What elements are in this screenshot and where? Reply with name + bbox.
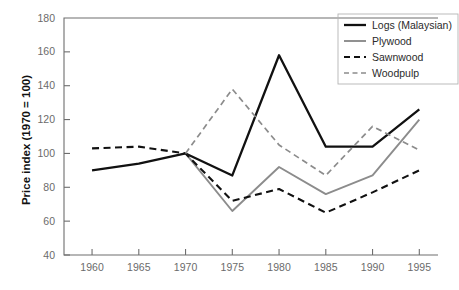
chart-canvas: Price index (1970 = 100) 406080100120140… <box>0 0 459 290</box>
line-chart-figure: Price index (1970 = 100) 406080100120140… <box>0 0 459 290</box>
series-line-logs-malaysian <box>92 55 419 175</box>
y-tick-label: 120 <box>37 113 55 125</box>
x-tick-labels: 19601965197019751980198519901995 <box>80 261 431 273</box>
y-axis-title: Price index (1970 = 100) <box>20 75 32 205</box>
legend-label: Woodpulp <box>372 67 419 79</box>
x-tick-label: 1960 <box>80 261 104 273</box>
data-series-group <box>92 55 419 212</box>
x-tick-label: 1990 <box>361 261 385 273</box>
x-tick-label: 1980 <box>267 261 291 273</box>
legend-label: Plywood <box>372 35 412 47</box>
y-tick-label: 60 <box>43 215 55 227</box>
series-line-sawnwood <box>92 147 419 213</box>
y-tick-label: 100 <box>37 147 55 159</box>
y-tick-label: 80 <box>43 181 55 193</box>
x-tick-label: 1965 <box>127 261 151 273</box>
y-tick-labels: 406080100120140160180 <box>37 12 55 261</box>
y-tick-label: 160 <box>37 45 55 57</box>
x-tick-label: 1975 <box>221 261 245 273</box>
x-tick-label: 1985 <box>314 261 338 273</box>
y-tick-label: 140 <box>37 79 55 91</box>
x-tick-label: 1970 <box>174 261 198 273</box>
y-axis-title-text: Price index (1970 = 100) <box>20 75 32 205</box>
chart-legend: Logs (Malaysian)PlywoodSawnwoodWoodpulp <box>338 14 458 84</box>
y-tick-label: 180 <box>37 12 55 24</box>
legend-label: Logs (Malaysian) <box>372 19 452 31</box>
y-tick-label: 40 <box>43 249 55 261</box>
legend-label: Sawnwood <box>372 51 424 63</box>
series-line-plywood <box>186 120 420 211</box>
x-tick-label: 1995 <box>408 261 432 273</box>
